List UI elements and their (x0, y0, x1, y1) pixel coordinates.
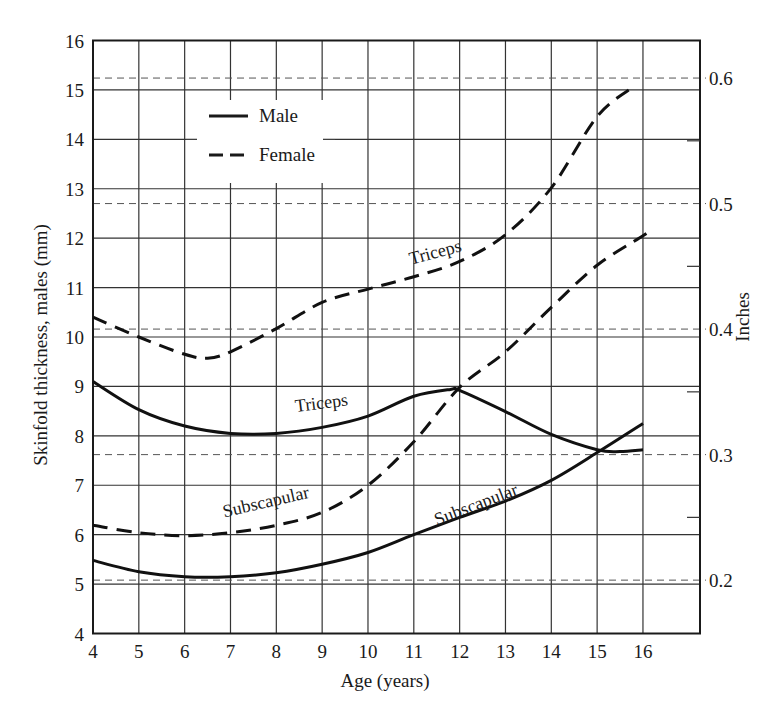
right-tick-label: 0.6 (709, 68, 733, 89)
x-tick-label: 11 (405, 641, 423, 662)
data-curves (93, 87, 650, 578)
x-axis-ticks: 45678910111213141516 (88, 641, 652, 662)
x-tick-label: 14 (542, 641, 562, 662)
x-tick-label: 4 (88, 641, 98, 662)
female-triceps-curve (93, 87, 634, 359)
x-tick-label: 7 (226, 641, 236, 662)
y-tick-label: 6 (75, 525, 85, 546)
x-tick-label: 16 (633, 641, 652, 662)
x-tick-label: 9 (317, 641, 327, 662)
y-axis-title: Skinfold thickness, males (mm) (30, 224, 52, 466)
male-subscapular-label: Subscapular (431, 479, 520, 529)
x-tick-label: 6 (180, 641, 190, 662)
right-axis-title: Inches (732, 292, 753, 342)
y-tick-label: 5 (75, 574, 85, 595)
y-tick-label: 12 (65, 228, 84, 249)
x-tick-label: 12 (450, 641, 469, 662)
x-tick-label: 15 (588, 641, 607, 662)
right-tick-label: 0.3 (709, 445, 733, 466)
y-tick-label: 11 (66, 278, 84, 299)
x-tick-label: 5 (134, 641, 144, 662)
skinfold-chart: TricepsTricepsSubscapularSubscapular 456… (0, 0, 781, 714)
y-tick-label: 4 (75, 624, 85, 645)
female-subscapular-curve (93, 231, 650, 536)
right-tick-label: 0.2 (709, 570, 733, 591)
y-tick-label: 8 (75, 426, 85, 447)
y-axis-ticks: 45678910111213141516 (65, 31, 85, 645)
female-subscapular-label: Subscapular (221, 482, 311, 521)
legend-female-label: Female (259, 144, 315, 165)
x-tick-label: 10 (358, 641, 377, 662)
x-tick-label: 13 (496, 641, 515, 662)
right-axis-ticks: 0.60.50.40.30.2 (709, 68, 733, 591)
male-triceps-label: Triceps (294, 390, 349, 416)
x-axis-title: Age (years) (340, 670, 429, 692)
y-tick-label: 9 (75, 376, 85, 397)
y-tick-label: 7 (75, 475, 85, 496)
y-tick-label: 15 (65, 80, 84, 101)
right-tick-label: 0.5 (709, 194, 733, 215)
x-tick-label: 8 (272, 641, 282, 662)
y-tick-label: 14 (65, 129, 85, 150)
right-tick-label: 0.4 (709, 319, 733, 340)
y-tick-label: 16 (65, 31, 84, 52)
legend-male-label: Male (259, 105, 298, 126)
y-tick-label: 13 (65, 179, 84, 200)
y-tick-label: 10 (65, 327, 84, 348)
grid-lines (93, 41, 700, 634)
